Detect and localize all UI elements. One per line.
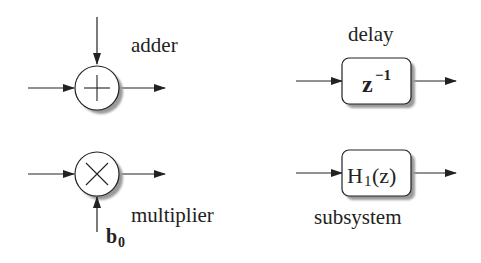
subsystem-label: subsystem — [314, 205, 402, 229]
coefficient-b: b — [106, 225, 117, 247]
delay-label: delay — [348, 22, 394, 46]
delay-exponent: −1 — [375, 67, 391, 83]
delay-block: delay z −1 — [296, 22, 456, 108]
coefficient-subscript: 0 — [118, 235, 125, 250]
subsystem-block: H 1 (z) subsystem — [296, 150, 456, 229]
diagram-canvas: adder delay z −1 multiplier b 0 H 1 (z) … — [0, 0, 481, 263]
multiplier-label: multiplier — [131, 203, 214, 227]
delay-z: z — [362, 71, 373, 97]
subsystem-h: H — [347, 163, 363, 188]
multiplier-block: multiplier b 0 — [28, 152, 214, 250]
subsystem-z: (z) — [372, 163, 396, 188]
adder-label: adder — [131, 33, 178, 57]
subsystem-subscript: 1 — [364, 173, 372, 189]
adder-block: adder — [28, 17, 178, 114]
diagram-svg: adder delay z −1 multiplier b 0 H 1 (z) … — [0, 0, 481, 263]
